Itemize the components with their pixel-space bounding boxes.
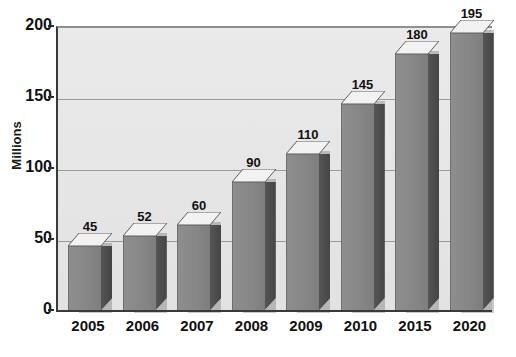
bar-side-face [210,225,221,310]
bar-side-face [428,54,439,310]
bar-value-label-2010: 145 [333,78,393,91]
y-tick-mark-50 [48,238,54,240]
bar-side-face [265,182,276,310]
bar-top-face [286,141,330,155]
bar-front-face [232,182,265,310]
y-tick-mark-100 [48,167,54,169]
bar-2010[interactable] [341,92,385,310]
plot-area: 45526090110145180195 [56,26,492,312]
bar-side-face [156,236,167,310]
bar-front-face [341,104,374,310]
bar-value-label-2006: 52 [115,210,175,223]
bar-2015[interactable] [395,42,439,310]
bar-side-face [483,33,494,310]
bar-side-face [319,154,330,310]
bar-front-face [177,225,210,310]
y-tick-mark-200 [48,25,54,27]
bar-front-face [286,154,319,310]
bar-chart: Millions 050100150200 455260901101451801… [0,0,516,357]
bar-front-face [395,54,428,310]
bar-top-face [177,212,221,226]
y-tick-mark-0 [48,309,54,311]
bar-value-label-2009: 110 [278,128,338,141]
bar-top-face [232,169,276,183]
bar-top-face [450,20,494,34]
bar-value-label-2007: 60 [169,199,229,212]
plot-inner: 45526090110145180195 [58,28,492,312]
bar-2005[interactable] [68,234,112,310]
x-axis-line [58,310,492,312]
bar-value-label-2015: 180 [387,28,447,41]
bar-value-label-2020: 195 [442,7,502,20]
y-tick-label-150: 150 [6,88,52,104]
y-axis-tick-labels: 050100150200 [0,0,52,357]
bar-top-face [395,41,439,55]
bar-top-face [68,233,112,247]
bar-top-face [341,91,385,105]
x-axis-tick-labels: 20052006200720082009201020152020 [56,318,492,348]
bar-front-face [123,236,156,310]
bar-value-label-2008: 90 [224,156,284,169]
y-tick-label-0: 0 [6,301,52,317]
bar-2020[interactable] [450,21,494,310]
bar-2008[interactable] [232,170,276,310]
bar-2009[interactable] [286,142,330,310]
bar-2007[interactable] [177,213,221,310]
y-tick-label-50: 50 [6,230,52,246]
x-tick-label-2020: 2020 [438,318,502,333]
bar-2006[interactable] [123,224,167,310]
bar-front-face [68,246,101,310]
y-tick-label-200: 200 [6,17,52,33]
bar-value-label-2005: 45 [60,220,120,233]
y-tick-label-100: 100 [6,159,52,175]
bar-front-face [450,33,483,310]
y-tick-mark-150 [48,96,54,98]
bar-side-face [374,104,385,310]
bar-top-face [123,223,167,237]
